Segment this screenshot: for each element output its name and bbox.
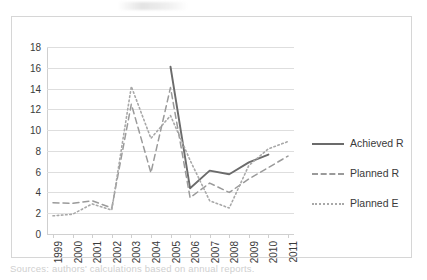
legend-label: Achieved R bbox=[350, 137, 404, 149]
x-tick-mark bbox=[151, 234, 152, 238]
x-tick-mark bbox=[249, 234, 250, 238]
x-tick-label: 2004 bbox=[151, 241, 162, 263]
x-tick-mark bbox=[131, 234, 132, 238]
x-tick-mark bbox=[288, 234, 289, 238]
x-tick-mark bbox=[268, 234, 269, 238]
x-tick-label: 2009 bbox=[249, 241, 260, 263]
x-tick-mark bbox=[229, 234, 230, 238]
y-tick-label: 18 bbox=[30, 42, 41, 53]
y-tick-label: 10 bbox=[30, 125, 41, 136]
x-tick-mark bbox=[73, 234, 74, 238]
chart-frame: 024681012141618 199920002001200220032004… bbox=[11, 16, 412, 258]
legend-item-planned-e: Planned E bbox=[312, 192, 417, 214]
x-tick-label: 2000 bbox=[73, 241, 84, 263]
x-tick-label: 2011 bbox=[288, 241, 299, 263]
x-tick-label: 2005 bbox=[171, 241, 182, 263]
legend-item-planned-r: Planned R bbox=[312, 162, 417, 184]
y-tick-label: 16 bbox=[30, 62, 41, 73]
x-tick-label: 2006 bbox=[190, 241, 201, 263]
legend-label: Planned R bbox=[350, 167, 399, 179]
y-tick-label: 0 bbox=[35, 229, 41, 240]
x-tick-mark bbox=[210, 234, 211, 238]
plot-area: 024681012141618 199920002001200220032004… bbox=[47, 47, 294, 234]
x-tick-label: 2010 bbox=[268, 241, 279, 263]
x-tick-label: 2007 bbox=[210, 241, 221, 263]
x-tick-label: 2002 bbox=[112, 241, 123, 263]
legend-line-dotted-icon bbox=[312, 198, 344, 208]
y-tick-label: 14 bbox=[30, 83, 41, 94]
figure-caption: Sources: authors' calculations based on … bbox=[10, 263, 420, 274]
legend-label: Planned E bbox=[350, 197, 398, 209]
series-line-planned-e bbox=[53, 86, 288, 215]
x-tick-mark bbox=[112, 234, 113, 238]
y-tick-label: 8 bbox=[35, 145, 41, 156]
y-tick-label: 12 bbox=[30, 104, 41, 115]
x-tick-mark bbox=[190, 234, 191, 238]
y-tick-label: 4 bbox=[35, 187, 41, 198]
x-tick-mark bbox=[92, 234, 93, 238]
legend-line-dashed-icon bbox=[312, 168, 344, 178]
x-tick-mark bbox=[171, 234, 172, 238]
series-line-planned-r bbox=[53, 88, 288, 209]
y-tick-label: 2 bbox=[35, 208, 41, 219]
legend-item-achieved-r: Achieved R bbox=[312, 132, 417, 154]
scan-artifact bbox=[118, 2, 188, 10]
legend-line-solid-icon bbox=[312, 138, 344, 148]
x-tick-label: 2003 bbox=[131, 241, 142, 263]
y-tick-label: 6 bbox=[35, 166, 41, 177]
series-lines bbox=[47, 47, 294, 234]
x-tick-label: 2001 bbox=[92, 241, 103, 263]
x-tick-label: 2008 bbox=[229, 241, 240, 263]
x-tick-label: 1999 bbox=[53, 241, 64, 263]
series-line-achieved-r bbox=[171, 67, 269, 189]
x-tick-mark bbox=[53, 234, 54, 238]
chart-legend: Achieved R Planned R Planned E bbox=[312, 132, 417, 222]
figure: 024681012141618 199920002001200220032004… bbox=[0, 0, 427, 280]
